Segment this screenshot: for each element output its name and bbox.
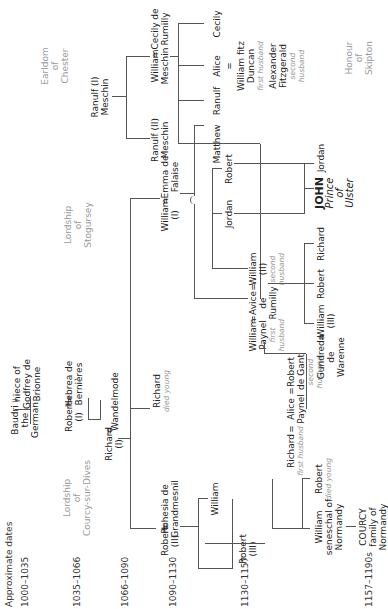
person-robert-died-young: Robert died young — [314, 458, 333, 500]
line — [234, 213, 304, 214]
line — [88, 398, 89, 420]
line — [118, 438, 130, 439]
date-period: 1066–1090 — [120, 557, 130, 607]
line — [126, 57, 127, 139]
date-period: 1130–1157 — [240, 557, 250, 607]
line — [272, 479, 273, 529]
line — [212, 213, 222, 214]
line — [346, 526, 356, 527]
person-emma-de-falaise: Emma deFalaise — [160, 156, 180, 199]
line — [204, 298, 248, 299]
person-jordan-son: Jordan — [316, 144, 326, 173]
line — [198, 498, 208, 499]
line — [170, 56, 178, 57]
line — [194, 298, 204, 299]
person-avice-de-rumilly: AvicedeRumilly — [248, 286, 278, 319]
family-tree-diagram: Approximate dates 1000–1035 1035–1066 10… — [0, 0, 388, 609]
line — [194, 204, 195, 299]
person-robert-iii: Robert(III) — [238, 534, 258, 564]
person-jordan: Jordan — [224, 200, 234, 229]
line — [194, 125, 204, 126]
person-richard-first-husband: Richard first husband — [286, 426, 305, 475]
line — [130, 199, 131, 529]
marriage-symbol: = — [286, 425, 296, 433]
line — [302, 528, 310, 529]
person-gundreda-de-warenne: GundredadeWarenne — [316, 335, 346, 379]
person-william-fitz-duncan: William fitzDuncan first husband — [236, 41, 265, 91]
line — [264, 342, 265, 354]
lordship-courcy: LordshipofCourcy-sur-Dives — [62, 460, 92, 536]
line — [178, 23, 204, 24]
line — [180, 526, 198, 527]
line — [126, 138, 150, 139]
person-niece-godfrey: niece ofGodfrey deBrionne — [12, 359, 42, 409]
person-rohesia: Rohesia deGrandmesnil — [160, 480, 180, 537]
line — [198, 568, 232, 569]
date-period: 1157–1190s — [364, 552, 374, 607]
line — [178, 100, 204, 101]
marriage-symbol: = — [150, 51, 160, 59]
line — [302, 479, 303, 529]
person-richard-died-young: Richard died young — [152, 370, 171, 412]
person-william-ii: William(II) secondhusband — [248, 253, 286, 286]
person-cecily: Cecily — [212, 10, 222, 37]
person-matthew: Matthew — [212, 125, 222, 164]
date-period: 1035–1066 — [72, 557, 82, 607]
line — [112, 96, 126, 97]
line — [194, 126, 195, 196]
line — [130, 408, 150, 409]
line — [178, 24, 179, 144]
earldom-chester: EarldomofChester — [40, 47, 70, 84]
person-hebrea: Hebrea deBernières — [64, 361, 84, 408]
person-cecily-de-rumilly: Cecily deRumilly — [150, 8, 170, 49]
person-richard-son: Richard — [316, 227, 326, 261]
line — [15, 409, 30, 410]
line — [100, 400, 101, 420]
line — [304, 164, 305, 214]
line — [88, 419, 100, 420]
line — [212, 169, 213, 269]
person-alice: Alice — [212, 55, 222, 77]
line — [268, 283, 304, 284]
line — [30, 396, 31, 424]
line — [178, 65, 204, 66]
person-john-prince-of-ulster: JOHN Prince of Ulster — [314, 177, 355, 209]
person-ranulf-i: Ranulf (I)Meschin — [90, 76, 110, 117]
marriage-symbol: = — [224, 62, 234, 70]
line — [198, 499, 199, 569]
person-robert: Robert — [224, 154, 234, 184]
line — [304, 323, 314, 324]
person-william-iii: William(III) — [316, 305, 336, 338]
date-period: 1000–1035 — [20, 557, 30, 607]
person-alexander-fitzgerald: AlexanderFitzgerald secondhusband — [268, 43, 306, 89]
line — [130, 528, 156, 529]
line — [232, 499, 233, 569]
person-alice-paynel: AlicePaynel — [286, 394, 306, 424]
person-william: William — [210, 483, 220, 516]
person-robert-son: Robert — [316, 269, 326, 299]
line — [304, 244, 305, 324]
honour-skipton: HonourofSkipton — [344, 41, 374, 75]
person-ranulf-ii: Ranulf (II)Meschin — [150, 118, 170, 162]
line — [180, 193, 194, 194]
line — [272, 528, 302, 529]
person-william-paynel: WilliamPaynel firsthusband — [248, 319, 286, 352]
line — [302, 478, 310, 479]
person-wandelmode: Wandelmode — [110, 372, 120, 431]
lordship-stogursey: LordshipofStogursey — [63, 202, 93, 247]
line — [304, 283, 314, 284]
line — [304, 163, 314, 164]
courcy-family-of-normandy: COURCYfamily ofNormandy — [358, 504, 388, 551]
line — [304, 243, 314, 244]
line — [126, 56, 150, 57]
line — [130, 198, 160, 199]
line-crossing — [190, 196, 196, 204]
person-ranulf: Ranulf — [212, 87, 222, 116]
person-william-seneschal: Williamseneschal ofNormandy — [314, 499, 344, 555]
line — [212, 268, 248, 269]
line — [234, 163, 304, 164]
line — [205, 543, 265, 544]
line — [212, 168, 222, 169]
dates-header: Approximate dates — [4, 522, 14, 607]
date-period: 1090–1130 — [168, 557, 178, 607]
